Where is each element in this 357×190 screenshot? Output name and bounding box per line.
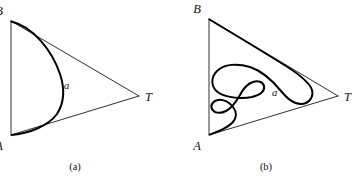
panel-b-curve-label-a: a	[272, 87, 277, 98]
panel-b-curve-a	[210, 20, 313, 135]
panel-a-group: B A T a	[0, 4, 153, 153]
panel-a-vertex-label-T: T	[145, 90, 153, 104]
panel-a-curve-label-a: a	[64, 80, 69, 91]
panel-b-caption: (b)	[260, 161, 272, 172]
geometry-figure-canvas: B A T a B A T a	[0, 0, 357, 190]
panel-b-vertex-label-B: B	[193, 2, 201, 16]
panel-a-vertex-label-B: B	[0, 4, 3, 18]
panel-a-edge-AT	[11, 96, 139, 135]
panel-b-vertex-label-A: A	[192, 139, 201, 153]
panel-a-vertex-label-A: A	[0, 139, 3, 153]
figure-container: B A T a B A T a (a) (b)	[0, 0, 357, 190]
panel-b-vertex-label-T: T	[344, 90, 352, 104]
panel-a-curve-a	[12, 22, 64, 136]
panel-b-group: B A T a	[192, 2, 352, 153]
panel-a-caption: (a)	[69, 161, 81, 172]
panel-a-edge-BT	[11, 21, 139, 96]
